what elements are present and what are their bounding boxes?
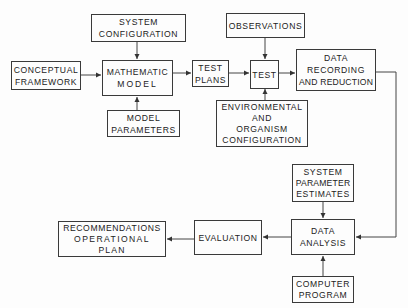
node-environmental-organism-configuration: ENVIRONMENTAL AND ORGANISM CONFIGURATION bbox=[216, 100, 308, 147]
node-evaluation: EVALUATION bbox=[194, 220, 262, 255]
node-conceptual-framework: CONCEPTUAL FRAMEWORK bbox=[11, 61, 81, 90]
node-label: ANALYSIS bbox=[300, 237, 346, 249]
node-label: RECORDING bbox=[307, 64, 365, 76]
node-label: TEST bbox=[252, 69, 276, 81]
node-system-configuration: SYSTEM CONFIGURATION bbox=[91, 14, 186, 42]
node-label: MATHEMATIC bbox=[107, 66, 169, 78]
node-label: DATA bbox=[311, 225, 335, 237]
node-label: OPERATIONAL bbox=[74, 234, 150, 245]
node-label: ORGANISM bbox=[236, 124, 288, 135]
node-label: CONCEPTUAL bbox=[14, 64, 79, 76]
node-label: ESTIMATES bbox=[296, 189, 349, 200]
node-label: SYSTEM bbox=[304, 167, 343, 178]
node-label: MODEL bbox=[127, 112, 161, 124]
node-label: FRAMEWORK bbox=[15, 76, 77, 88]
node-label: CONFIGURATION bbox=[222, 135, 301, 146]
node-label: RECOMMENDATIONS bbox=[63, 223, 161, 234]
node-label: AND REDUCTION bbox=[299, 76, 373, 88]
node-label: PARAMETER bbox=[296, 178, 351, 189]
node-label: COMPUTER bbox=[296, 279, 350, 290]
node-model-parameters: MODEL PARAMETERS bbox=[107, 110, 180, 137]
node-recommendations-operational-plan: RECOMMENDATIONS OPERATIONAL PLAN bbox=[58, 221, 166, 257]
flowchart-canvas: SYSTEM CONFIGURATION CONCEPTUAL FRAMEWOR… bbox=[0, 0, 408, 308]
node-label: SYSTEM bbox=[119, 16, 158, 28]
node-observations: OBSERVATIONS bbox=[226, 13, 305, 38]
node-label: PLANS bbox=[195, 74, 226, 86]
node-label: OBSERVATIONS bbox=[229, 20, 303, 32]
node-label: EVALUATION bbox=[198, 232, 257, 244]
node-label: PROGRAM bbox=[299, 290, 348, 301]
node-label: TEST bbox=[198, 62, 222, 74]
node-label: ENVIRONMENTAL bbox=[221, 102, 302, 113]
node-computer-program: COMPUTER PROGRAM bbox=[292, 276, 354, 303]
node-label: CONFIGURATION bbox=[99, 28, 178, 40]
node-data-analysis: DATA ANALYSIS bbox=[291, 219, 355, 255]
node-mathematic-model: MATHEMATIC MODEL bbox=[102, 60, 173, 96]
node-label: PARAMETERS bbox=[111, 124, 176, 136]
node-label: AND bbox=[252, 113, 272, 124]
node-test-plans: TEST PLANS bbox=[192, 60, 229, 87]
node-label: DATA bbox=[324, 52, 348, 64]
connector-lines bbox=[0, 0, 408, 308]
node-label: MODEL bbox=[117, 78, 158, 90]
node-data-recording-reduction: DATA RECORDING AND REDUCTION bbox=[296, 49, 376, 91]
node-label: PLAN bbox=[98, 245, 125, 256]
node-system-parameter-estimates: SYSTEM PARAMETER ESTIMATES bbox=[292, 164, 354, 202]
node-test: TEST bbox=[250, 60, 279, 89]
